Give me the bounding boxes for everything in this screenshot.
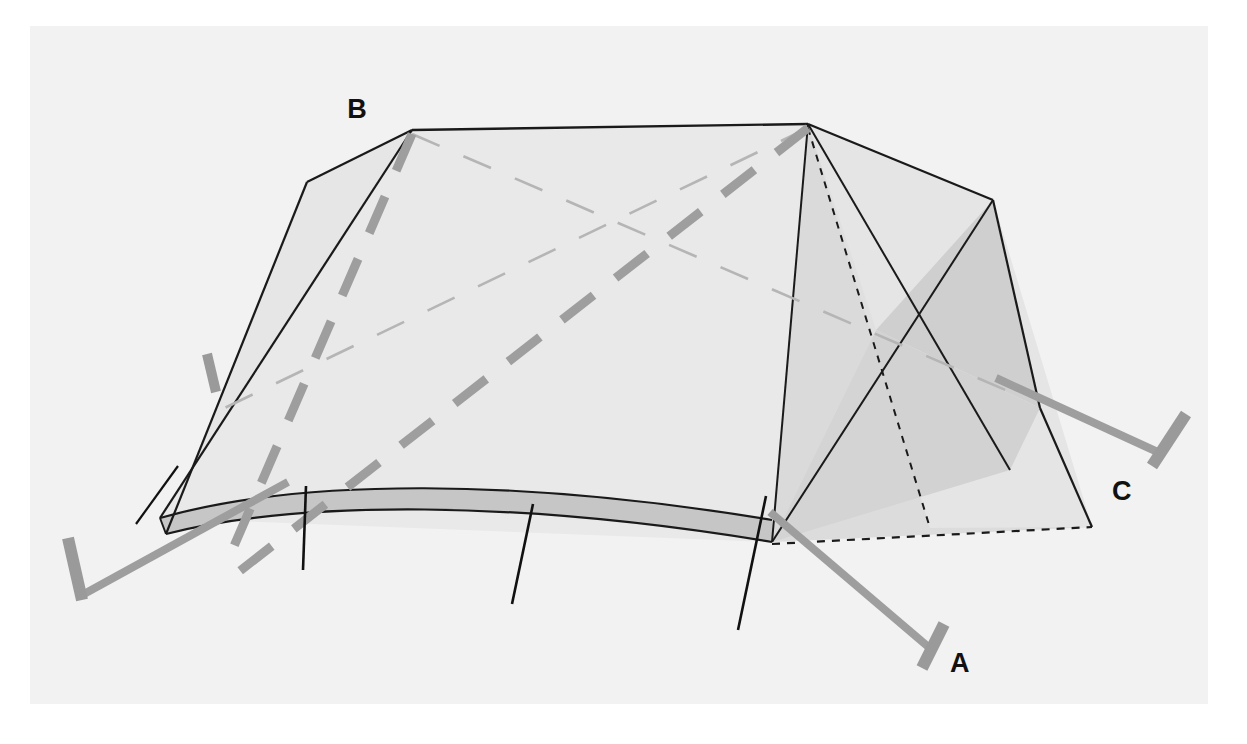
- peg-c: [1152, 414, 1186, 466]
- peg-front-left: [68, 538, 82, 600]
- label-a: A: [950, 648, 970, 678]
- label-b: B: [347, 94, 367, 124]
- figure-root: B A C: [0, 0, 1247, 744]
- tent-illustration: B A C: [0, 0, 1247, 744]
- peg-rear-left: [207, 354, 216, 392]
- label-c: C: [1112, 476, 1132, 506]
